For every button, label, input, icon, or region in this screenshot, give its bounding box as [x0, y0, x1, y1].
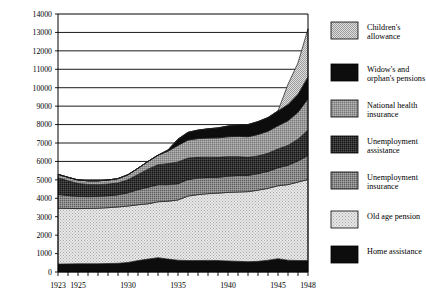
y-tick-label-5000: 5000 [36, 176, 52, 185]
legend-label2-unemployment-assistance: assistance [367, 146, 400, 155]
x-tick-label-1948: 1948 [300, 281, 316, 290]
legend-item-widows-orphans-pensions[interactable]: Widow's andorphan's pensions [331, 64, 425, 83]
x-axis-ticks [58, 272, 308, 276]
y-tick-label-12000: 12000 [33, 47, 53, 56]
x-axis-labels: 1923192519301935194019451948 [50, 281, 316, 290]
x-tick-label-1940: 1940 [220, 281, 236, 290]
legend-swatch-childrens-allowance [331, 22, 358, 39]
legend-item-national-health-insurance[interactable]: National healthinsurance [331, 100, 417, 119]
y-tick-label-14000: 14000 [33, 10, 53, 19]
y-tick-label-8000: 8000 [36, 120, 52, 129]
stacked-area-chart: 0100020003000400050006000700080009000100… [0, 0, 426, 306]
y-tick-label-10000: 10000 [33, 84, 53, 93]
legend-item-home-assistance[interactable]: Home assistance [331, 246, 422, 263]
legend-item-unemployment-assistance[interactable]: Unemploymentassistance [331, 136, 419, 155]
y-tick-label-4000: 4000 [36, 194, 52, 203]
legend-label-home-assistance: Home assistance [367, 247, 422, 256]
y-tick-label-1000: 1000 [36, 249, 52, 258]
legend-label2-widows-orphans-pensions: orphan's pensions [367, 74, 425, 83]
legend-swatch-unemployment-assistance [331, 136, 358, 153]
x-tick-label-1923: 1923 [50, 281, 66, 290]
y-tick-label-9000: 9000 [36, 102, 52, 111]
legend-item-old-age-pension[interactable]: Old age pension [331, 211, 420, 228]
chart-legend: Children'sallowanceWidow's andorphan's p… [331, 22, 425, 263]
legend-label-widows-orphans-pensions: Widow's and [367, 65, 409, 74]
legend-label2-unemployment-insurance: insurance [367, 182, 399, 191]
legend-swatch-home-assistance [331, 246, 358, 263]
legend-label-childrens-allowance: Children's [367, 23, 400, 32]
legend-label-unemployment-assistance: Unemployment [367, 137, 419, 146]
y-tick-label-6000: 6000 [36, 157, 52, 166]
legend-label2-childrens-allowance: allowance [367, 32, 401, 41]
legend-item-childrens-allowance[interactable]: Children'sallowance [331, 22, 401, 41]
legend-label-national-health-insurance: National health [367, 101, 417, 110]
y-tick-label-11000: 11000 [33, 65, 52, 74]
x-tick-label-1945: 1945 [270, 281, 286, 290]
chart-canvas: 0100020003000400050006000700080009000100… [0, 0, 426, 306]
legend-label-old-age-pension: Old age pension [367, 212, 420, 221]
x-tick-label-1925: 1925 [70, 281, 86, 290]
y-tick-label-2000: 2000 [36, 231, 52, 240]
legend-label-unemployment-insurance: Unemployment [367, 173, 419, 182]
legend-swatch-old-age-pension [331, 211, 358, 228]
y-tick-label-0: 0 [48, 268, 52, 277]
y-tick-label-7000: 7000 [36, 139, 52, 148]
y-tick-label-13000: 13000 [33, 28, 53, 37]
legend-item-unemployment-insurance[interactable]: Unemploymentinsurance [331, 172, 419, 191]
legend-swatch-national-health-insurance [331, 100, 358, 117]
legend-swatch-unemployment-insurance [331, 172, 358, 189]
x-tick-label-1930: 1930 [120, 281, 136, 290]
y-axis-labels: 0100020003000400050006000700080009000100… [33, 10, 53, 277]
x-tick-label-1935: 1935 [170, 281, 186, 290]
legend-label2-national-health-insurance: insurance [367, 110, 399, 119]
legend-swatch-widows-orphans-pensions [331, 64, 358, 81]
y-tick-label-3000: 3000 [36, 213, 52, 222]
